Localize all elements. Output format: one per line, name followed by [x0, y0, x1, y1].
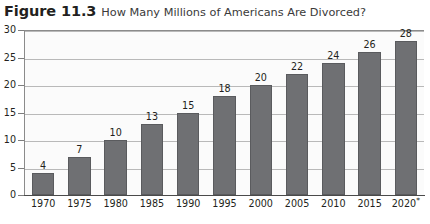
x-axis-label: 1990: [170, 199, 206, 209]
bar-series: 47101315182022242628: [25, 30, 424, 195]
y-axis-tick: [18, 195, 24, 196]
x-axis-label: 1980: [98, 199, 134, 209]
bar-slot: 7: [61, 30, 97, 195]
bar-value-label: 4: [25, 161, 61, 171]
bar[interactable]: [141, 124, 163, 196]
bar[interactable]: [32, 173, 54, 195]
x-axis-label: 2020*: [388, 199, 424, 209]
bar-slot: 28: [388, 30, 424, 195]
bar-slot: 20: [243, 30, 279, 195]
bar-slot: 24: [315, 30, 351, 195]
figure-container: Figure 11.3 How Many Millions of America…: [0, 0, 430, 224]
bar-value-label: 26: [351, 40, 387, 50]
x-axis-label: 1985: [134, 199, 170, 209]
figure-number: Figure 11.3: [4, 3, 96, 19]
y-axis-tick: [18, 85, 24, 86]
bar[interactable]: [250, 85, 272, 195]
bar-value-label: 15: [170, 101, 206, 111]
bar-value-label: 13: [134, 112, 170, 122]
x-axis-label: 2010: [315, 199, 351, 209]
bar-slot: 22: [279, 30, 315, 195]
bar-value-label: 28: [388, 29, 424, 39]
bar-slot: 10: [98, 30, 134, 195]
footnote-marker: *: [416, 196, 420, 205]
x-axis-line: [24, 195, 425, 196]
y-axis-label: 15: [0, 108, 16, 118]
x-axis-label: 2005: [279, 199, 315, 209]
y-axis-tick: [18, 168, 24, 169]
x-axis-label: 1995: [206, 199, 242, 209]
x-axis-label: 2000: [243, 199, 279, 209]
bar[interactable]: [213, 96, 235, 195]
x-axis-labels: 1970197519801985199019952000200520102015…: [25, 199, 424, 215]
y-axis-label: 20: [0, 80, 16, 90]
bar-value-label: 7: [61, 145, 97, 155]
bar[interactable]: [322, 63, 344, 195]
bar-slot: 26: [351, 30, 387, 195]
bar-slot: 18: [206, 30, 242, 195]
bar[interactable]: [104, 140, 126, 195]
bar-value-label: 10: [98, 128, 134, 138]
bar-value-label: 24: [315, 51, 351, 61]
y-axis-label: 30: [0, 25, 16, 35]
bar-slot: 15: [170, 30, 206, 195]
y-axis-tick: [18, 30, 24, 31]
bar-value-label: 22: [279, 62, 315, 72]
y-axis-label: 5: [0, 163, 16, 173]
x-axis-label: 1970: [25, 199, 61, 209]
y-axis-label: 10: [0, 135, 16, 145]
y-axis-tick: [18, 140, 24, 141]
bar[interactable]: [177, 113, 199, 196]
figure-title: How Many Millions of Americans Are Divor…: [101, 6, 366, 19]
bar-slot: 4: [25, 30, 61, 195]
bar-value-label: 20: [243, 73, 279, 83]
x-axis-label: 2015: [351, 199, 387, 209]
y-axis-label: 0: [0, 190, 16, 200]
bar-slot: 13: [134, 30, 170, 195]
figure-caption: Figure 11.3 How Many Millions of America…: [4, 3, 366, 21]
bar[interactable]: [358, 52, 380, 195]
y-axis-label: 25: [0, 53, 16, 63]
bar-value-label: 18: [206, 84, 242, 94]
y-axis-tick: [18, 58, 24, 59]
x-axis-label: 1975: [61, 199, 97, 209]
bar[interactable]: [395, 41, 417, 195]
y-axis-tick: [18, 113, 24, 114]
bar[interactable]: [68, 157, 90, 196]
bar[interactable]: [286, 74, 308, 195]
